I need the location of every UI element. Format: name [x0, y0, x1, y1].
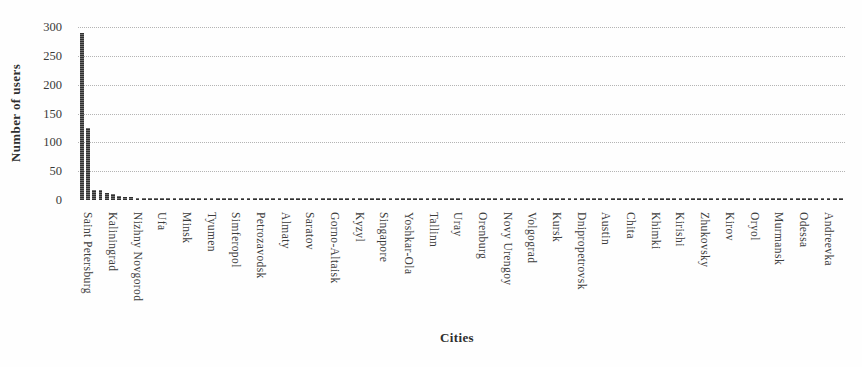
bar — [561, 198, 565, 200]
bar — [734, 198, 738, 200]
bar — [592, 198, 596, 200]
gridline-y-250 — [78, 56, 845, 57]
bar — [191, 198, 195, 200]
bar — [210, 198, 214, 200]
y-tick-label-150: 150 — [20, 106, 62, 122]
bar — [315, 198, 319, 200]
bar — [438, 198, 442, 200]
bar — [493, 198, 497, 200]
bar — [142, 198, 146, 200]
bar — [796, 198, 800, 200]
bar — [827, 198, 831, 200]
bar — [413, 198, 417, 200]
bar — [382, 198, 386, 200]
bar — [389, 198, 393, 200]
bar — [450, 198, 454, 200]
bar — [524, 198, 528, 200]
bar — [740, 198, 744, 200]
bar — [765, 198, 769, 200]
bar — [339, 198, 343, 200]
bar — [105, 193, 109, 200]
bar — [302, 198, 306, 200]
x-category-label: Andreevka — [823, 212, 835, 266]
bar — [475, 198, 479, 200]
bar — [234, 198, 238, 200]
bar — [839, 198, 843, 200]
bar — [771, 198, 775, 200]
x-category-label: Chita — [625, 212, 637, 239]
bar — [80, 33, 84, 200]
bar — [568, 198, 572, 200]
bar — [580, 198, 584, 200]
bar — [666, 198, 670, 200]
bar — [308, 198, 312, 200]
bar — [463, 198, 467, 200]
bar — [753, 198, 757, 200]
bar — [512, 198, 516, 200]
bar — [487, 198, 491, 200]
bar — [549, 198, 553, 200]
bar — [642, 198, 646, 200]
bar — [253, 198, 257, 200]
gridline-y-300 — [78, 27, 845, 28]
bar — [709, 198, 713, 200]
bar — [216, 198, 220, 200]
bar — [345, 198, 349, 200]
bar — [654, 198, 658, 200]
bar — [746, 198, 750, 200]
bar — [321, 198, 325, 200]
bar — [802, 198, 806, 200]
bar — [259, 198, 263, 200]
x-category-label: Petrozavodsk — [255, 212, 267, 279]
bar — [432, 198, 436, 200]
bar — [352, 198, 356, 200]
x-category-label: Almaty — [280, 212, 292, 249]
bar — [247, 198, 251, 200]
bar-chart-figure: Number of users Cities 05010015020025030… — [0, 0, 862, 367]
bar — [456, 198, 460, 200]
x-category-label: Odessa — [798, 212, 810, 248]
bar — [703, 198, 707, 200]
bar — [679, 198, 683, 200]
x-category-label: Kirishi — [674, 212, 686, 247]
bar — [629, 198, 633, 200]
bar — [407, 198, 411, 200]
x-category-label: Uray — [452, 212, 464, 237]
x-category-label: Dnipropetrovsk — [576, 212, 588, 290]
gridline-y-100 — [78, 142, 845, 143]
x-category-label: Saint Petersburg — [82, 212, 94, 294]
x-category-label: Austin — [600, 212, 612, 245]
bar — [92, 190, 96, 200]
bar — [543, 198, 547, 200]
bar — [660, 198, 664, 200]
bar — [617, 198, 621, 200]
bar — [691, 198, 695, 200]
y-tick-label-300: 300 — [20, 19, 62, 35]
bar — [129, 197, 133, 200]
bar — [518, 198, 522, 200]
bar — [555, 198, 559, 200]
bar — [284, 198, 288, 200]
x-category-label: Kaliningrad — [107, 212, 119, 271]
bar — [123, 197, 127, 200]
bar — [605, 198, 609, 200]
bar — [160, 198, 164, 200]
bar — [179, 198, 183, 200]
y-tick-label-200: 200 — [20, 77, 62, 93]
bar — [401, 198, 405, 200]
bar — [716, 198, 720, 200]
x-category-label: Singapore — [378, 212, 390, 262]
bar — [728, 198, 732, 200]
bar — [419, 198, 423, 200]
bar — [358, 198, 362, 200]
bar — [611, 198, 615, 200]
bar — [99, 190, 103, 200]
bar — [506, 198, 510, 200]
bar — [722, 198, 726, 200]
y-tick-label-50: 50 — [20, 163, 62, 179]
x-category-label: Minsk — [181, 212, 193, 243]
bar — [222, 198, 226, 200]
bar — [537, 198, 541, 200]
y-tick-label-0: 0 — [20, 192, 62, 208]
bar — [278, 198, 282, 200]
